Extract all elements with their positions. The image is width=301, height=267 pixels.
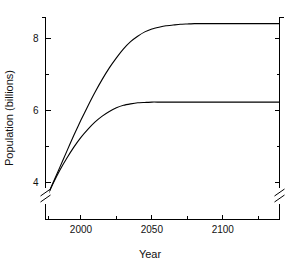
y-tick-label: 6 [33, 105, 39, 116]
y-tick-label: 4 [33, 177, 39, 188]
x-tick-label: 2050 [141, 224, 164, 235]
population-projection-chart: 468200020502100 Year Population (billion… [0, 0, 301, 267]
y-tick-label: 8 [33, 33, 39, 44]
x-tick-label: 2000 [70, 224, 93, 235]
y-axis-title: Population (billions) [3, 70, 15, 166]
chart-canvas: 468200020502100 Year Population (billion… [0, 0, 301, 267]
x-tick-label: 2100 [212, 224, 235, 235]
x-axis-title: Year [139, 248, 162, 260]
